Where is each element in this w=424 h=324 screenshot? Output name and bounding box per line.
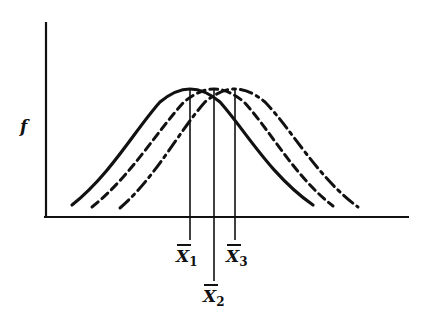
distribution-diagram <box>0 0 424 324</box>
mean-label-2: X2 <box>203 284 225 308</box>
mean-label-3: X3 <box>226 244 248 268</box>
mean-label-3-subscript: 3 <box>239 255 247 269</box>
mean-label-2-letter: X <box>203 286 216 306</box>
mean-label-1-letter: X <box>176 246 189 266</box>
curve-distribution-2 <box>92 89 333 207</box>
mean-label-3-letter: X <box>226 246 239 266</box>
mean-label-1: X1 <box>176 244 198 268</box>
y-axis-label: f <box>20 116 27 136</box>
curve-distribution-1 <box>72 89 313 205</box>
mean-label-2-subscript: 2 <box>216 295 224 309</box>
mean-label-1-subscript: 1 <box>189 255 197 269</box>
